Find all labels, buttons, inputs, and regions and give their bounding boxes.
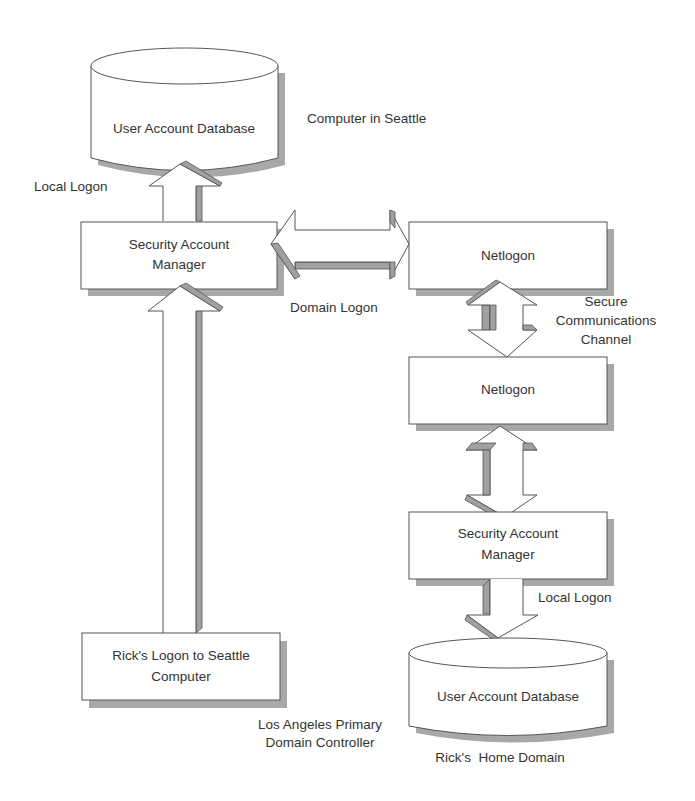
secure-channel-label-line2: Communications (556, 313, 657, 328)
la-pdc-label-line2: Domain Controller (266, 735, 375, 750)
secure-channel-label-line1: Secure (585, 294, 628, 309)
computer-in-seattle-label: Computer in Seattle (307, 111, 426, 126)
ricks-logon-to-seattle-computer: Rick's Logon to Seattle Computer (82, 633, 287, 708)
seattle-netlogon: Netlogon (409, 222, 614, 296)
ricks-logon-to-sam-arrow (148, 283, 223, 633)
secure-channel-label-line3: Channel (581, 332, 631, 347)
local-logon-top-label: Local Logon (34, 179, 108, 194)
la-netlogon: Netlogon (409, 357, 614, 431)
la-security-account-manager: Security Account Manager (409, 512, 614, 586)
la-netlogon-label: Netlogon (481, 382, 535, 397)
seattle-netlogon-label: Netlogon (481, 248, 535, 263)
domain-logon-double-arrow (271, 210, 409, 279)
logon-flow-diagram: User Account Database Computer in Seattl… (0, 0, 695, 801)
seattle-sam-label-line2: Manager (152, 257, 206, 272)
la-sam-label-line2: Manager (481, 547, 535, 562)
la-pdc-label-line1: Los Angeles Primary (258, 717, 382, 732)
netlogon-sam-double-arrow (465, 426, 537, 522)
ricks-logon-label-line2: Computer (151, 669, 211, 684)
domain-logon-label: Domain Logon (290, 300, 378, 315)
home-domain-label: Rick's Home Domain (435, 750, 564, 765)
la-user-account-database: User Account Database (409, 638, 614, 743)
seattle-user-account-database: User Account Database (91, 48, 285, 178)
seattle-sam-label-line1: Security Account (129, 237, 230, 252)
local-logon-bottom-label: Local Logon (538, 590, 612, 605)
la-sam-label-line1: Security Account (458, 526, 559, 541)
la-user-db-label: User Account Database (437, 689, 579, 704)
local-logon-arrow-down (465, 579, 538, 643)
seattle-user-db-label: User Account Database (113, 121, 255, 136)
ricks-logon-label-line1: Rick's Logon to Seattle (112, 648, 250, 663)
